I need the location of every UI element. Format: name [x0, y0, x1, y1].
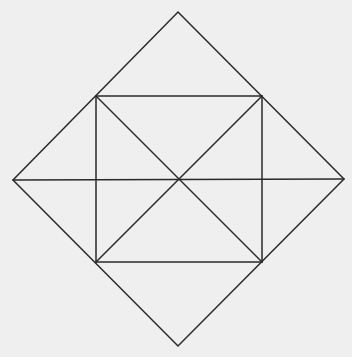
horizontal-midline: [13, 179, 344, 180]
geometry-diagram: [0, 0, 352, 357]
